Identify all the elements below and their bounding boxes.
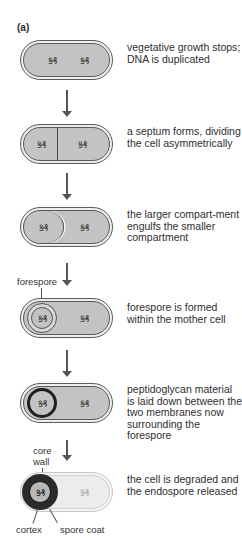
dna-icon: ꝸ₰ [38, 397, 47, 410]
forespore-label: forespore [17, 276, 57, 287]
dna-icon: ꝸ₰ [48, 54, 57, 67]
arrow-down-icon [66, 173, 68, 195]
cytoplasm: ꝸ₰ ꝸ₰ [23, 43, 110, 77]
cell-stage-3: ꝸ₰ ꝸ₰ [20, 207, 113, 247]
degraded-dna-icon: ꝸ₰ [80, 486, 89, 499]
arrow-down-icon [66, 263, 68, 281]
cytoplasm: ꝸ₰ ꝸ₰ [23, 386, 110, 420]
cytoplasm: ꝸ₰ ꝸ₰ [23, 210, 110, 244]
dna-icon: ꝸ₰ [38, 312, 47, 325]
stage-6-description: the cell is degraded and the endospore r… [127, 474, 242, 497]
cell-stage-2: ꝸ₰ ꝸ₰ [20, 124, 113, 164]
dna-icon: ꝸ₰ [80, 54, 89, 67]
spore-coat-label: spore coat [60, 524, 104, 535]
cell-stage-5: ꝸ₰ ꝸ₰ [20, 383, 113, 423]
dna-icon: ꝸ₰ [36, 486, 45, 499]
cytoplasm: ꝸ₰ ꝸ₰ [23, 127, 110, 161]
cortex-label: cortex [16, 524, 42, 535]
dna-icon: ꝸ₰ [78, 138, 87, 151]
stage-5-description: peptidoglycan material is laid down betw… [127, 384, 242, 442]
endospore: ꝸ₰ [22, 474, 58, 510]
septum [57, 128, 58, 160]
dna-icon: ꝸ₰ [39, 221, 48, 234]
arrow-down-icon [66, 440, 68, 456]
cell-stage-1: ꝸ₰ ꝸ₰ [20, 40, 113, 80]
cytoplasm: ꝸ₰ ꝸ₰ [23, 301, 110, 335]
stage-4-description: forespore is formed within the mother ce… [127, 302, 242, 325]
panel-label: (a) [17, 22, 29, 33]
dna-icon: ꝸ₰ [80, 221, 89, 234]
arrow-down-icon [66, 350, 68, 372]
dna-icon: ꝸ₰ [80, 312, 89, 325]
stage-3-description: the larger compart-ment engulfs the smal… [127, 209, 242, 244]
wall-label: wall [33, 456, 49, 467]
dna-icon: ꝸ₰ [37, 138, 46, 151]
stage-2-description: a septum forms, dividing the cell asymme… [127, 126, 242, 149]
dna-icon: ꝸ₰ [80, 397, 89, 410]
core-label: core [33, 445, 51, 456]
arrow-down-icon [66, 90, 68, 112]
cell-stage-4: ꝸ₰ ꝸ₰ [20, 298, 113, 338]
stage-1-description: vegetative growth stops; DNA is duplicat… [127, 42, 242, 65]
